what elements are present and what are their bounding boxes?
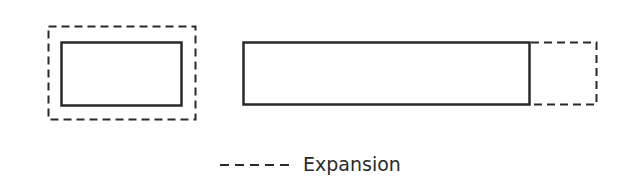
original-rect-small bbox=[62, 43, 182, 106]
original-rect-long bbox=[244, 43, 530, 105]
directional-expansion-outline bbox=[531, 43, 597, 105]
expansion-diagram: Expansion bbox=[0, 0, 626, 187]
legend-label: Expansion bbox=[303, 153, 401, 175]
